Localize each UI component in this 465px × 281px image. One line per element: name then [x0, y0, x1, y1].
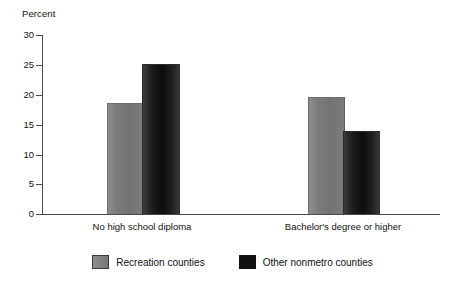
y-tick-label: 20 [10, 89, 34, 100]
bar-recreation-no-high-school-diploma [107, 103, 144, 214]
legend-label: Other nonmetro counties [263, 257, 373, 268]
bar-other-nonmetro-no-high-school-diploma [142, 64, 180, 214]
y-tick-label: 5 [10, 178, 34, 189]
y-tick-label: 25 [10, 59, 34, 70]
y-axis-title: Percent [22, 8, 55, 19]
legend: Recreation counties Other nonmetro count… [0, 255, 465, 269]
x-axis-line [42, 214, 440, 215]
bar-other-nonmetro-bachelors-degree-or-higher [343, 131, 380, 214]
legend-item-recreation-counties: Recreation counties [92, 255, 204, 269]
legend-label: Recreation counties [116, 257, 204, 268]
legend-item-other-nonmetro-counties: Other nonmetro counties [239, 255, 373, 269]
plot-area [42, 35, 440, 214]
x-axis-category-label-1: Bachelor's degree or higher [285, 221, 401, 232]
legend-swatch-icon-black [239, 255, 256, 269]
y-tick-label: 10 [10, 149, 34, 160]
y-tick-label: 15 [10, 119, 34, 130]
legend-swatch-icon-gray [92, 255, 109, 269]
bar-recreation-bachelors-degree-or-higher [308, 97, 345, 214]
y-tick [36, 214, 42, 215]
bar-chart: Percent 30 25 20 15 10 5 0 No high schoo… [0, 0, 465, 281]
y-tick-label: 0 [10, 208, 34, 219]
y-tick-label: 30 [10, 29, 34, 40]
x-axis-category-label-0: No high school diploma [93, 221, 192, 232]
